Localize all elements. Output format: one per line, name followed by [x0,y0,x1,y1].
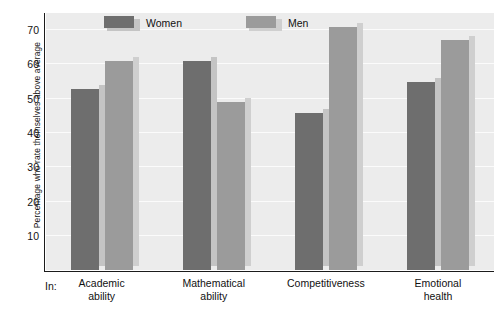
x-label-line: ability [79,290,125,303]
women-swatch-icon [104,16,140,29]
x-label-line: Mathematical [183,277,245,290]
y-tick-label: 50 [3,93,39,105]
y-tick-label: 70 [3,24,39,36]
x-label-line: ability [183,290,245,303]
x-category-label: Competitiveness [287,277,365,290]
x-label-line: Emotional [415,277,462,290]
legend-item-women[interactable]: Women [104,16,182,29]
legend-item-men[interactable]: Men [246,16,308,29]
y-tick-label: 60 [3,58,39,70]
bar-chart: Percentage who rate themselves above ave… [0,0,504,312]
legend-label-men: Men [288,17,308,29]
y-tick-label: 30 [3,161,39,173]
x-category-label: Emotionalhealth [415,277,462,302]
x-label-line: Academic [79,277,125,290]
y-tick-label: 10 [3,230,39,242]
x-label-line: Competitiveness [287,277,365,290]
x-axis-category-labels: AcademicabilityMathematicalabilityCompet… [0,277,504,312]
legend-label-women: Women [146,17,182,29]
men-swatch-icon [246,16,282,29]
x-category-label: Academicability [79,277,125,302]
x-category-label: Mathematicalability [183,277,245,302]
y-tick-label: 20 [3,196,39,208]
y-tick-label: 40 [3,127,39,139]
x-label-line: health [415,290,462,303]
legend: Women Men [104,16,308,29]
plot-axes-frame [44,13,494,272]
